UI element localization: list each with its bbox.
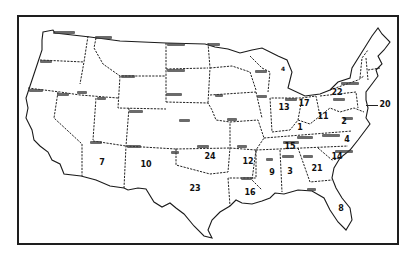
value-ohio: 17 bbox=[298, 100, 309, 108]
state-label-new-york bbox=[341, 82, 359, 85]
state-label-wyoming bbox=[121, 75, 135, 78]
state-label-illinois bbox=[257, 95, 267, 98]
value-delaware-maryland: 20 bbox=[379, 101, 390, 109]
value-pennsylvania: 22 bbox=[331, 89, 342, 97]
state-label-utah bbox=[97, 97, 106, 100]
value-new-mexico: 10 bbox=[140, 161, 151, 169]
state-label-south-dakota bbox=[167, 69, 185, 72]
us-outline-map bbox=[0, 0, 414, 262]
value-mississippi: 9 bbox=[269, 169, 275, 177]
value-michigan: 4 bbox=[281, 66, 285, 72]
state-label-arizona bbox=[90, 141, 102, 144]
national-outline bbox=[26, 28, 390, 238]
state-label-pennsylvania bbox=[333, 98, 345, 101]
state-label-idaho bbox=[77, 91, 87, 94]
state-label-oklahoma bbox=[197, 145, 209, 148]
state-label-nebraska bbox=[166, 93, 182, 96]
value-alabama: 3 bbox=[287, 168, 293, 176]
state-label-minnesota bbox=[208, 43, 220, 46]
value-texas: 23 bbox=[189, 185, 200, 193]
state-label-michigan bbox=[285, 98, 297, 101]
state-borders bbox=[28, 36, 380, 206]
value-west-virginia: 11 bbox=[317, 113, 328, 121]
state-label-california bbox=[29, 89, 43, 92]
value-kentucky: 1 bbox=[297, 124, 303, 132]
state-label-missouri bbox=[227, 118, 237, 121]
state-label-colorado bbox=[129, 110, 143, 113]
state-label-north-dakota bbox=[167, 43, 185, 46]
state-label-arkansas bbox=[237, 145, 247, 148]
value-arkansas: 12 bbox=[242, 158, 253, 166]
state-label-georgia bbox=[303, 155, 313, 158]
value-north-carolina: 4 bbox=[344, 136, 350, 144]
state-label-oregon bbox=[40, 60, 52, 63]
state-label-texas bbox=[171, 151, 179, 154]
leader-line-20 bbox=[366, 105, 378, 106]
state-label-mississippi bbox=[266, 158, 273, 161]
state-label-virginia bbox=[322, 134, 340, 137]
state-label-wisconsin bbox=[255, 70, 267, 73]
value-south-carolina: 14 bbox=[331, 153, 342, 161]
value-arizona: 7 bbox=[99, 159, 105, 167]
value-florida: 8 bbox=[338, 205, 344, 213]
state-label-nevada bbox=[57, 93, 69, 96]
value-indiana: 13 bbox=[278, 104, 289, 112]
state-label-louisiana bbox=[241, 177, 252, 180]
value-tennessee: 15 bbox=[284, 143, 295, 151]
state-label-kentucky bbox=[297, 136, 313, 139]
state-label-florida bbox=[307, 188, 316, 191]
state-label-washington bbox=[53, 31, 75, 34]
value-louisiana: 16 bbox=[244, 189, 255, 197]
state-label-montana bbox=[95, 36, 112, 39]
value-virginia: 2 bbox=[341, 118, 347, 126]
state-label-new-mexico bbox=[127, 145, 141, 148]
value-oklahoma: 24 bbox=[204, 153, 215, 161]
value-georgia: 21 bbox=[311, 165, 322, 173]
state-label-alabama bbox=[282, 155, 294, 158]
state-label-kansas bbox=[179, 119, 190, 122]
state-label-iowa bbox=[215, 94, 223, 97]
